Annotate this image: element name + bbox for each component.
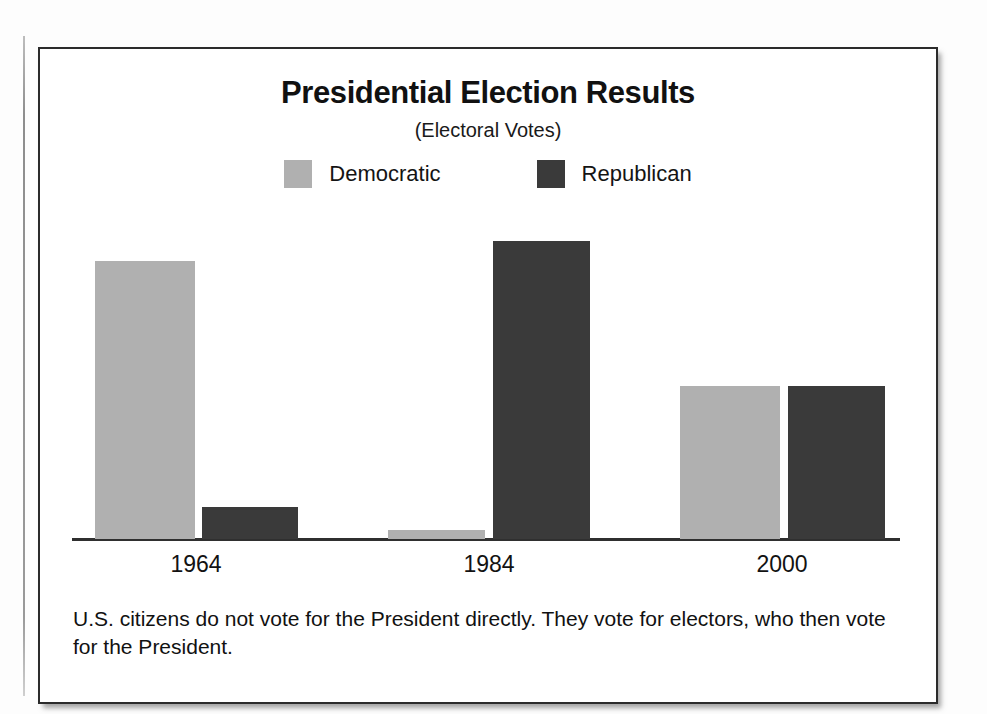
chart-legend: Democratic Republican bbox=[40, 160, 936, 188]
x-tick-label-1984: 1984 bbox=[429, 551, 549, 578]
bar-1964-republican bbox=[202, 507, 298, 539]
legend-item-democratic: Democratic bbox=[284, 160, 440, 188]
legend-label-democratic: Democratic bbox=[329, 161, 440, 187]
bar-1984-democratic bbox=[388, 530, 485, 539]
x-tick-label-2000: 2000 bbox=[722, 551, 842, 578]
bar-1964-democratic bbox=[95, 261, 195, 539]
bar-1984-republican bbox=[493, 241, 590, 539]
legend-swatch-republican-icon bbox=[537, 160, 565, 188]
figure-caption: U.S. citizens do not vote for the Presid… bbox=[73, 605, 892, 661]
plot-area bbox=[72, 189, 900, 539]
chart-title: Presidential Election Results bbox=[40, 75, 936, 111]
bar-2000-democratic bbox=[680, 386, 780, 539]
x-tick-label-1964: 1964 bbox=[136, 551, 256, 578]
legend-swatch-democratic-icon bbox=[284, 160, 312, 188]
x-axis-tick-labels: 196419842000 bbox=[72, 551, 900, 585]
figure-frame: Presidential Election Results (Electoral… bbox=[38, 47, 938, 704]
legend-label-republican: Republican bbox=[582, 161, 692, 187]
legend-item-republican: Republican bbox=[537, 160, 692, 188]
bar-2000-republican bbox=[788, 386, 885, 539]
chart-subtitle: (Electoral Votes) bbox=[40, 119, 936, 142]
page-gutter-rule bbox=[23, 36, 25, 696]
